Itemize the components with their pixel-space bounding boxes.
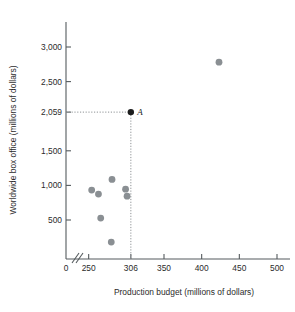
x-tick-label: 250 (82, 263, 96, 273)
y-tick-label: 2,059 (41, 107, 62, 117)
y-tick-label: 1,500 (41, 146, 62, 156)
data-point-highlighted (128, 109, 134, 115)
plot-area: Worldwide box office (millions of dollar… (0, 0, 295, 312)
x-tick-label: 306 (124, 263, 138, 273)
data-point (109, 176, 116, 183)
data-point (95, 191, 102, 198)
scatter-chart: Worldwide box office (millions of dollar… (0, 0, 295, 312)
data-point-label: A (136, 107, 143, 117)
y-tick-label: 1,000 (41, 180, 62, 190)
x-axis-ticks: 0250306350400450500 (64, 254, 285, 273)
x-tick-label: 0 (64, 263, 69, 273)
data-point (122, 186, 129, 193)
y-axis-title: Worldwide box office (millions of dollar… (8, 65, 18, 214)
axis-break-icon (72, 253, 83, 263)
data-point (108, 239, 115, 246)
x-tick-label: 450 (232, 263, 246, 273)
x-axis-title: Production budget (millions of dollars) (114, 287, 254, 297)
x-tick-label: 500 (270, 263, 284, 273)
data-point (88, 187, 95, 194)
data-point (97, 215, 104, 222)
data-point (216, 59, 223, 66)
guide-lines (66, 112, 131, 259)
data-points: A (88, 59, 222, 246)
y-tick-label: 500 (48, 215, 62, 225)
data-point (124, 193, 131, 200)
x-tick-label: 400 (195, 263, 209, 273)
x-tick-label: 350 (157, 263, 171, 273)
y-tick-label: 3,000 (41, 42, 62, 52)
y-tick-label: 2,500 (41, 77, 62, 87)
